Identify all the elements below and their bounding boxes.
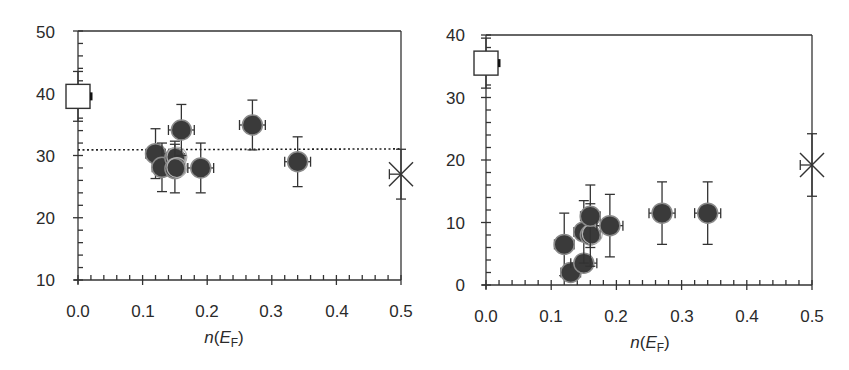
left-x-axis-label: n(EF) xyxy=(204,328,244,350)
data-point-circle xyxy=(695,182,721,245)
reference-dotted-line xyxy=(78,149,401,150)
data-point-circle xyxy=(188,143,214,193)
data-point-cross xyxy=(800,134,824,197)
data-point-cross xyxy=(389,149,413,199)
left-x-tick-1: 0.1 xyxy=(131,302,155,321)
left-y-tick-40: 40 xyxy=(36,85,55,104)
left-y-tick-labels: 10 20 30 40 50 xyxy=(36,23,55,290)
left-x-tick-3: 0.3 xyxy=(259,302,283,321)
right-y-tick-0: 0 xyxy=(456,276,465,295)
figure: 10 20 30 40 50 0.0 0.1 0.2 0.3 0.4 0.5 n… xyxy=(0,0,849,370)
left-y-tick-50: 50 xyxy=(36,23,55,42)
left-scatter-chart xyxy=(66,31,413,285)
right-y-tick-20: 20 xyxy=(446,151,465,170)
right-y-tick-40: 40 xyxy=(446,26,465,45)
left-x-tick-5: 0.5 xyxy=(389,302,413,321)
right-y-tick-10: 10 xyxy=(446,214,465,233)
left-x-tick-4: 0.4 xyxy=(325,302,349,321)
left-x-tick-labels: 0.0 0.1 0.2 0.3 0.4 0.5 xyxy=(66,302,413,321)
data-point-circle xyxy=(285,137,311,187)
left-y-tick-20: 20 xyxy=(36,209,55,228)
data-point-circle xyxy=(240,100,266,150)
data-point-square xyxy=(66,71,93,121)
right-x-tick-labels: 0.0 0.1 0.2 0.3 0.4 0.5 xyxy=(474,307,824,326)
right-x-tick-5: 0.5 xyxy=(800,307,824,326)
right-x-tick-4: 0.4 xyxy=(735,307,759,326)
right-x-tick-0: 0.0 xyxy=(474,307,498,326)
right-scatter-chart xyxy=(474,35,824,290)
right-x-tick-2: 0.2 xyxy=(604,307,628,326)
right-x-axis-label: n(EF) xyxy=(630,333,670,355)
left-x-tick-0: 0.0 xyxy=(66,302,90,321)
data-point-circle xyxy=(649,182,675,245)
data-point-square xyxy=(474,38,501,88)
left-x-tick-2: 0.2 xyxy=(195,302,219,321)
right-x-tick-3: 0.3 xyxy=(670,307,694,326)
left-y-tick-30: 30 xyxy=(36,147,55,166)
data-point-circle xyxy=(597,194,623,257)
left-y-tick-10: 10 xyxy=(36,271,55,290)
right-y-tick-labels: 0 10 20 30 40 xyxy=(446,26,465,295)
right-y-tick-30: 30 xyxy=(446,89,465,108)
right-x-tick-1: 0.1 xyxy=(539,307,563,326)
